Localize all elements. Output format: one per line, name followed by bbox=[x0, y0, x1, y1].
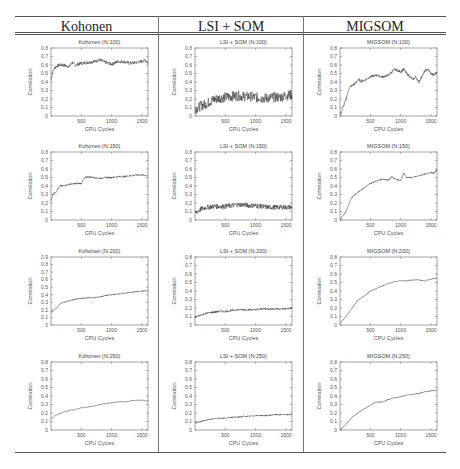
y-axis-label: Correlation bbox=[27, 383, 33, 410]
y-tick-label: 0 bbox=[334, 322, 337, 328]
chart-title: Kohonen (N:150) bbox=[79, 143, 121, 149]
y-tick-label: 0.6 bbox=[330, 376, 337, 382]
x-tick-label: 1500 bbox=[425, 222, 436, 228]
chart-title: LSI + SOM (N:250) bbox=[220, 353, 267, 359]
y-tick-label: 0.8 bbox=[330, 45, 337, 51]
data-line bbox=[195, 307, 292, 318]
chart-title: LSI + SOM (N:200) bbox=[220, 248, 267, 254]
y-tick-label: 0.4 bbox=[185, 79, 192, 85]
y-tick-label: 0.4 bbox=[41, 393, 48, 399]
y-tick-label: 0.1 bbox=[41, 418, 48, 424]
plot-frame bbox=[340, 362, 437, 430]
x-tick-label: 500 bbox=[77, 118, 86, 124]
y-tick-label: 0.5 bbox=[41, 70, 48, 76]
y-tick-label: 0 bbox=[334, 113, 337, 119]
y-tick-label: 0.3 bbox=[330, 296, 337, 302]
y-axis-label: Correlation bbox=[316, 278, 322, 305]
chart-title: MIGSOM (N:100) bbox=[367, 39, 410, 45]
x-tick-label: 1000 bbox=[106, 118, 117, 124]
data-line bbox=[51, 290, 148, 312]
x-tick-label: 500 bbox=[221, 118, 230, 124]
data-line bbox=[51, 59, 148, 81]
y-tick-label: 0 bbox=[189, 322, 192, 328]
x-axis-label: CPU Cycles bbox=[85, 126, 115, 132]
y-tick-label: 0 bbox=[189, 427, 192, 433]
x-axis-label: CPU Cycles bbox=[229, 440, 259, 446]
data-line bbox=[51, 400, 148, 419]
y-tick-label: 0.7 bbox=[185, 262, 192, 268]
chart-title: LSI + SOM (N:150) bbox=[220, 143, 267, 149]
chart-title: MIGSOM (N:250) bbox=[367, 353, 410, 359]
y-tick-label: 0.5 bbox=[330, 70, 337, 76]
y-tick-label: 0.5 bbox=[330, 279, 337, 285]
x-tick-label: 1500 bbox=[136, 118, 147, 124]
x-tick-label: 1500 bbox=[136, 222, 147, 228]
x-tick-label: 1000 bbox=[395, 118, 406, 124]
x-tick-label: 1500 bbox=[136, 432, 147, 438]
y-tick-label: 0.1 bbox=[330, 208, 337, 214]
y-tick-label: 0.3 bbox=[330, 401, 337, 407]
y-tick-label: 0.7 bbox=[330, 262, 337, 268]
x-tick-label: 500 bbox=[366, 432, 375, 438]
y-tick-label: 0.1 bbox=[41, 208, 48, 214]
y-axis-label: Correlation bbox=[171, 173, 177, 200]
y-tick-label: 0.7 bbox=[41, 53, 48, 59]
x-axis-label: CPU Cycles bbox=[229, 230, 259, 236]
data-line bbox=[340, 390, 437, 430]
y-tick-label: 0.7 bbox=[41, 367, 48, 373]
header-rule-1 bbox=[15, 32, 446, 33]
chart-title: Kohonen (N:100) bbox=[79, 39, 121, 45]
y-tick-label: 0 bbox=[189, 217, 192, 223]
data-line bbox=[51, 174, 148, 201]
y-axis-label: Correlation bbox=[316, 383, 322, 410]
y-tick-label: 0.8 bbox=[41, 359, 48, 365]
x-tick-label: 500 bbox=[221, 222, 230, 228]
chart-migsom-n-250: MIGSOM (N:250)00.10.20.30.40.50.60.70.85… bbox=[304, 350, 447, 455]
y-tick-label: 0.1 bbox=[41, 314, 48, 320]
y-tick-label: 0.3 bbox=[185, 296, 192, 302]
y-tick-label: 0.5 bbox=[185, 279, 192, 285]
y-tick-label: 0.5 bbox=[41, 284, 48, 290]
y-tick-label: 0.8 bbox=[330, 359, 337, 365]
x-tick-label: 1500 bbox=[280, 327, 291, 333]
y-tick-label: 0.7 bbox=[185, 367, 192, 373]
y-tick-label: 0.3 bbox=[41, 87, 48, 93]
y-tick-label: 0.3 bbox=[330, 87, 337, 93]
x-tick-label: 1000 bbox=[250, 327, 261, 333]
x-tick-label: 1000 bbox=[395, 327, 406, 333]
y-tick-label: 0.2 bbox=[185, 410, 192, 416]
y-tick-label: 0.2 bbox=[330, 305, 337, 311]
y-tick-label: 0.3 bbox=[330, 191, 337, 197]
chart-migsom-n-200: MIGSOM (N:200)00.10.20.30.40.50.60.70.85… bbox=[304, 245, 447, 350]
x-tick-label: 1000 bbox=[250, 432, 261, 438]
y-tick-label: 0.6 bbox=[41, 376, 48, 382]
plot-frame bbox=[340, 48, 437, 116]
y-tick-label: 0.2 bbox=[41, 200, 48, 206]
chart-title: MIGSOM (N:200) bbox=[367, 248, 410, 254]
y-tick-label: 0.1 bbox=[41, 104, 48, 110]
y-tick-label: 0.5 bbox=[41, 384, 48, 390]
y-tick-label: 0 bbox=[45, 322, 48, 328]
chart-lsi-som-n-100: LSI + SOM (N:100)00.10.20.30.40.50.60.70… bbox=[159, 36, 302, 141]
y-tick-label: 0.7 bbox=[185, 157, 192, 163]
y-tick-label: 0.8 bbox=[185, 45, 192, 51]
x-axis-label: CPU Cycles bbox=[374, 126, 404, 132]
y-tick-label: 0.4 bbox=[330, 79, 337, 85]
results-table: Kohonen LSI + SOM MIGSOM Kohonen (N:100)… bbox=[15, 16, 446, 453]
x-tick-label: 500 bbox=[77, 432, 86, 438]
y-tick-label: 0.2 bbox=[330, 96, 337, 102]
y-tick-label: 0.3 bbox=[185, 87, 192, 93]
x-axis-label: CPU Cycles bbox=[85, 230, 115, 236]
y-tick-label: 0.4 bbox=[185, 183, 192, 189]
x-tick-label: 500 bbox=[221, 327, 230, 333]
y-tick-label: 0.8 bbox=[185, 149, 192, 155]
y-tick-label: 0.2 bbox=[41, 96, 48, 102]
y-tick-label: 0.1 bbox=[185, 104, 192, 110]
plot-frame bbox=[195, 152, 292, 220]
y-tick-label: 0.6 bbox=[41, 276, 48, 282]
data-line bbox=[340, 278, 437, 323]
y-tick-label: 0.4 bbox=[330, 288, 337, 294]
y-tick-label: 0.8 bbox=[41, 149, 48, 155]
x-tick-label: 1500 bbox=[425, 327, 436, 333]
y-tick-label: 0.2 bbox=[330, 200, 337, 206]
